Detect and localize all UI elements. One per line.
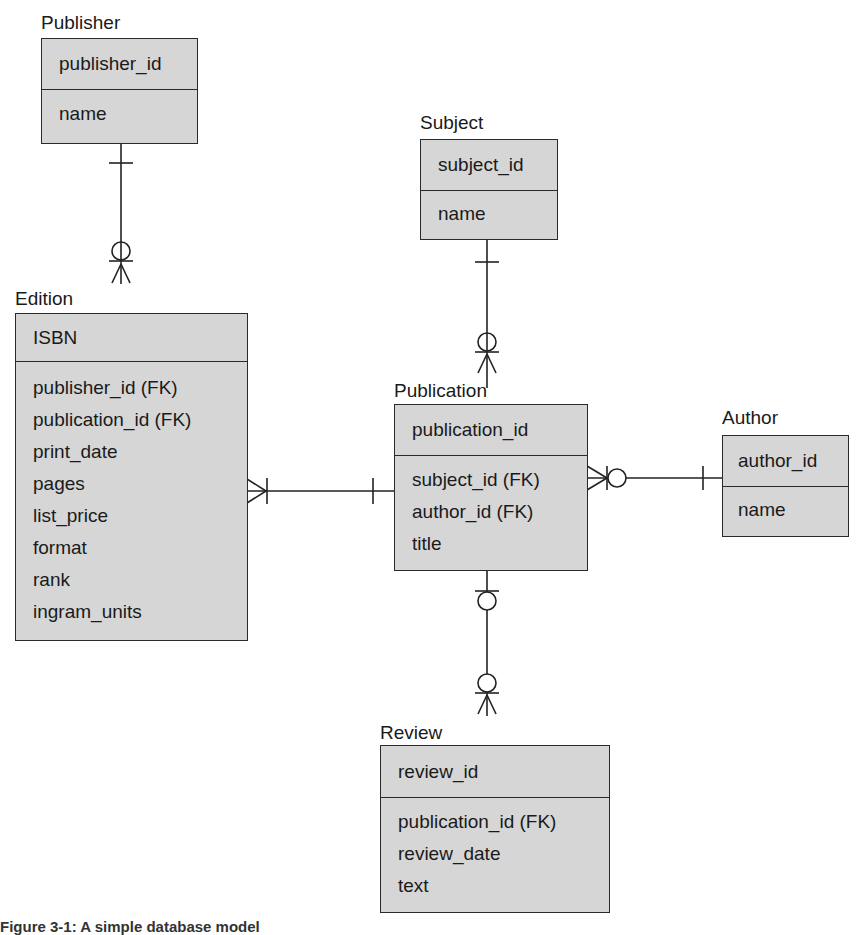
primary-key: publisher_id [42, 39, 197, 90]
entity-subject[interactable]: subject_id name [420, 139, 558, 240]
entity-title-author: Author [722, 407, 778, 429]
entity-edition[interactable]: ISBN publisher_id (FK) publication_id (F… [15, 313, 248, 641]
entity-publication[interactable]: publication_id subject_id (FK) author_id… [394, 404, 588, 571]
entity-title-publication: Publication [394, 380, 487, 402]
attribute: review_date [398, 838, 609, 870]
primary-key: ISBN [16, 314, 247, 362]
entity-review[interactable]: review_id publication_id (FK) review_dat… [380, 745, 610, 913]
attribute: title [412, 528, 587, 560]
attribute: ingram_units [33, 596, 247, 628]
attribute: pages [33, 468, 247, 500]
attribute: format [33, 532, 247, 564]
primary-key: review_id [381, 746, 609, 798]
primary-key: publication_id [395, 405, 587, 456]
attribute: author_id (FK) [412, 496, 587, 528]
entity-author[interactable]: author_id name [722, 435, 849, 537]
entity-title-subject: Subject [420, 112, 483, 134]
rel-publisher-edition [109, 143, 133, 284]
attribute: name [59, 98, 197, 130]
rel-edition-publication [247, 478, 394, 504]
attribute: publication_id (FK) [398, 806, 609, 838]
rel-subject-publication [475, 239, 499, 388]
entity-title-review: Review [380, 722, 442, 744]
figure-caption: Figure 3-1: A simple database model [0, 918, 260, 935]
entity-title-publisher: Publisher [41, 12, 120, 34]
rel-publication-author [587, 466, 722, 490]
attribute: print_date [33, 436, 247, 468]
attribute: rank [33, 564, 247, 596]
rel-publication-review [475, 570, 499, 716]
attribute: publication_id (FK) [33, 404, 247, 436]
entity-title-edition: Edition [15, 288, 73, 310]
entity-publisher[interactable]: publisher_id name [41, 38, 198, 144]
attribute: publisher_id (FK) [33, 372, 247, 404]
attribute: name [738, 494, 848, 526]
attribute: name [438, 198, 557, 230]
attribute: text [398, 870, 609, 902]
primary-key: subject_id [421, 140, 557, 191]
attribute: subject_id (FK) [412, 464, 587, 496]
attribute: list_price [33, 500, 247, 532]
primary-key: author_id [723, 436, 848, 487]
